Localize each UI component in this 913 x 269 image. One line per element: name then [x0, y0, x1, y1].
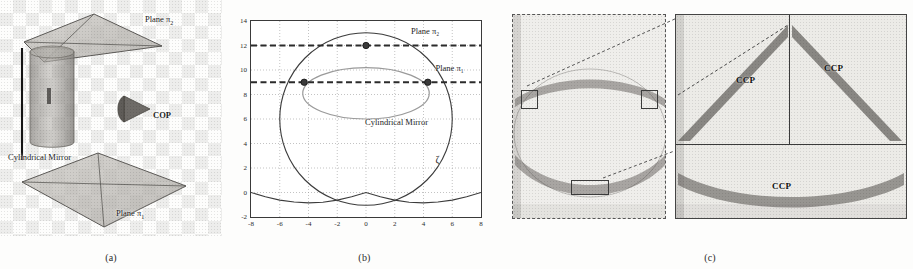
chart-annotation: ζ: [435, 154, 439, 165]
ccp-label-right: CCP: [824, 63, 843, 73]
chart-annotation: Plane π₂: [411, 26, 439, 36]
panel-a-diagram: [0, 0, 222, 236]
plane-pi2-label: Plane π2: [145, 14, 173, 26]
cylindrical-mirror-shape: [30, 46, 74, 147]
zoom-box-bottom[interactable]: [571, 180, 609, 195]
chart-ytick: -2: [230, 213, 247, 221]
zoom-box-left[interactable]: [521, 90, 538, 109]
chart-ytick: 14: [230, 17, 247, 25]
chart-ytick: 12: [230, 42, 247, 50]
detail-vertical-divider: [789, 15, 790, 145]
zoom-detail-panel: CCP CCP CCP: [675, 14, 907, 219]
chart-xtick: 4: [422, 220, 426, 228]
plane-pi1-shape: [22, 153, 186, 227]
panel-b-caption: (b): [222, 252, 507, 263]
chart-ytick: 6: [230, 115, 247, 123]
chart-xtick: -2: [334, 220, 340, 228]
ccp-label-bottom: CCP: [772, 181, 791, 191]
ccp-label-left: CCP: [736, 75, 755, 85]
chart-xtick: 2: [393, 220, 397, 228]
chart-annotation: Cylindrical Mirror: [365, 117, 428, 127]
chart-xtick: -8: [248, 220, 254, 228]
chart-ytick: 8: [230, 91, 247, 99]
chart-xtick: -6: [277, 220, 283, 228]
chart-xtick: 8: [479, 220, 483, 228]
panel-a-caption: (a): [0, 252, 222, 263]
zoom-box-right[interactable]: [641, 90, 658, 109]
figure-root: Plane π2 Plane π1 Cylindrical Mirror COP…: [0, 0, 913, 269]
chart-ytick: 10: [230, 66, 247, 74]
detail-horizontal-divider: [676, 144, 906, 145]
panel-a: Plane π2 Plane π1 Cylindrical Mirror COP…: [0, 0, 222, 269]
chart-xtick: 6: [451, 220, 455, 228]
chart-ytick: 4: [230, 140, 247, 148]
panel-b: -8-6-4-202468-202468101214 Plane π₂Plane…: [222, 0, 507, 269]
cop-label: COP: [153, 110, 171, 120]
chart-annotation: Plane π₁: [435, 63, 463, 73]
panel-c-caption: (c): [507, 252, 913, 263]
panel-c: CCP CCP CCP (c): [507, 0, 913, 269]
cylindrical-image-full: [512, 14, 666, 219]
chart-ytick: 0: [230, 189, 247, 197]
panel-a-scene: Plane π2 Plane π1 Cylindrical Mirror COP: [0, 0, 222, 236]
plane-pi1-label: Plane π1: [116, 208, 144, 220]
cop-marker-shape: [118, 96, 150, 122]
cylindrical-mirror-label: Cylindrical Mirror: [8, 152, 71, 162]
chart-ytick: 2: [230, 164, 247, 172]
chart-xtick: -4: [306, 220, 312, 228]
chart-xtick: 0: [364, 220, 368, 228]
